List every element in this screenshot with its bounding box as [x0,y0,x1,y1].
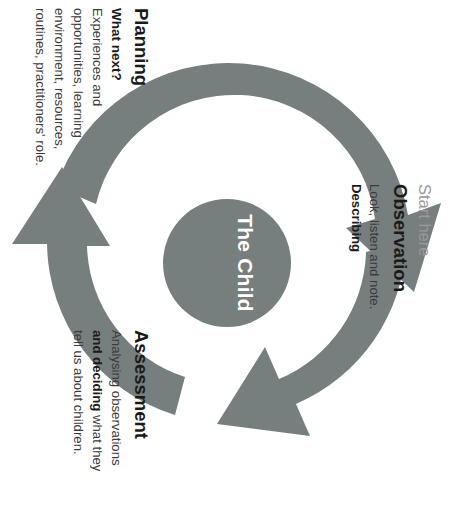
observation-title: Observation [388,184,411,374]
planning-body: Experiences and opportunities, learning … [31,8,106,193]
observation-body: Look, listen and note. Describing [346,184,383,374]
stage-observation: Start here Observation Look, listen and … [346,184,435,374]
observation-body-bold-1: Describing [349,184,364,252]
diagram-canvas: The Child Start here Observation Look, l… [0,0,453,523]
planning-body-line-4: routines, practitioners' role. [33,8,48,166]
centre-circle-label: The Child [234,203,257,323]
assessment-body-part-2: what they [90,411,105,471]
planning-body-line-2: opportunities, learning [71,8,86,138]
assessment-body: Analysing observations and deciding what… [69,330,125,510]
observation-start-here-label: Start here [414,184,435,374]
assessment-body-part-1: Analysing observations [109,330,124,466]
planning-body-line-3: environment, resources, [52,8,67,149]
assessment-title: Assessment [130,330,153,510]
centre-circle [163,199,291,327]
assessment-body-bold-1: and deciding [90,330,105,411]
stage-planning: Planning What next? Experiences and oppo… [31,8,153,193]
cycle-diagram: The Child Start here Observation Look, l… [0,0,453,523]
planning-body-line-1: Experiences and [90,8,105,106]
stage-assessment: Assessment Analysing observations and de… [69,330,153,510]
assessment-body-part-3: tell us about children. [71,330,86,455]
planning-what-next-label: What next? [107,8,125,193]
planning-title: Planning [130,8,153,193]
observation-body-line-1: Look, listen and note. [367,184,382,309]
